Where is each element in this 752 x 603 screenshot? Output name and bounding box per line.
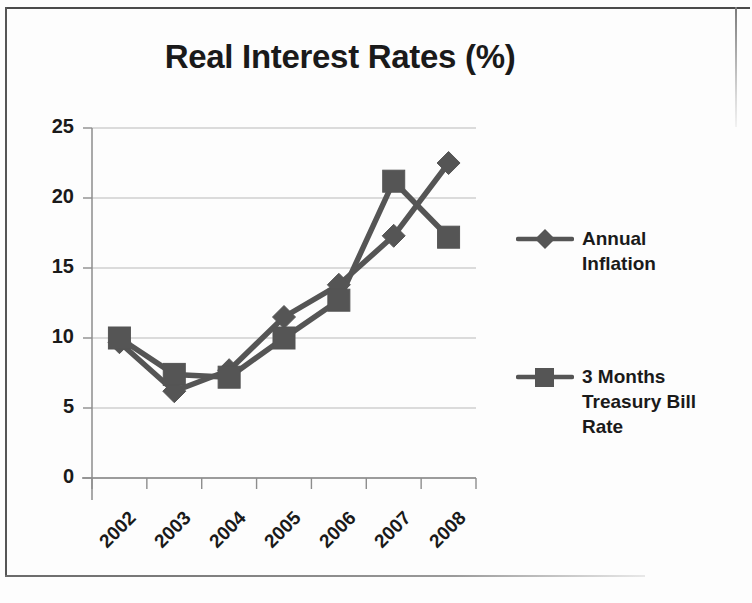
gridlines (92, 128, 476, 478)
square-marker (218, 366, 240, 388)
y-axis-tick-label: 25 (30, 115, 74, 138)
y-axis-tick-label: 20 (30, 185, 74, 208)
scanned-chart-page: Real Interest Rates (%) 0510152025 20022… (0, 0, 752, 603)
data-series (108, 152, 460, 403)
square-marker (328, 289, 350, 311)
x-axis-ticks (92, 478, 476, 489)
y-axis-tick-label: 0 (30, 465, 74, 488)
square-marker (163, 363, 185, 385)
square-marker (516, 366, 574, 388)
square-marker (273, 327, 295, 349)
legend-label: Annual Inflation (582, 226, 656, 276)
series-line-1 (119, 163, 448, 391)
legend-label: 3 Months Treasury Bill Rate (582, 364, 696, 439)
legend-entry-1[interactable]: Annual Inflation (516, 226, 656, 276)
square-marker (438, 226, 460, 248)
square-marker (383, 170, 405, 192)
legend-entry-2[interactable]: 3 Months Treasury Bill Rate (516, 364, 696, 439)
y-axis-tick-label: 15 (30, 255, 74, 278)
y-axis-tick-label: 5 (30, 395, 74, 418)
square-marker (108, 327, 130, 349)
diamond-marker (516, 228, 574, 250)
legend-marker-sample (516, 366, 574, 388)
y-axis-tick-label: 10 (30, 325, 74, 348)
legend-marker-sample (516, 228, 574, 250)
line-chart-plot (0, 0, 752, 603)
